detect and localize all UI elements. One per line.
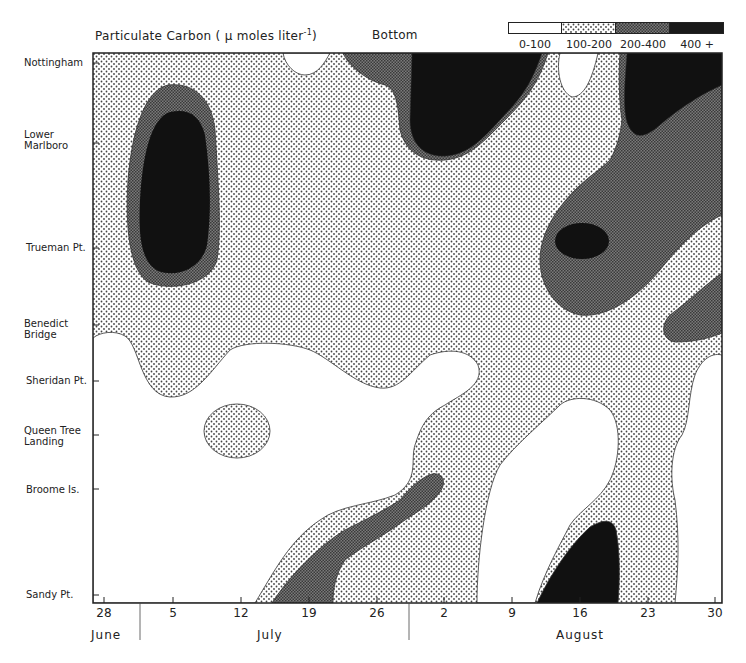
month-june: June bbox=[91, 628, 121, 642]
xlabel-aug-2: 2 bbox=[429, 606, 459, 620]
ylabel-queen-tree-line1: Queen Tree bbox=[24, 425, 81, 436]
contour-plot bbox=[0, 0, 746, 663]
ylabel-queen-tree-landing: Queen Tree Landing bbox=[24, 425, 81, 447]
xlabel-jul-5: 5 bbox=[158, 606, 188, 620]
xlabel-aug-23: 23 bbox=[633, 606, 663, 620]
ylabel-lower-marlboro-line2: Marlboro bbox=[24, 140, 68, 151]
ylabel-queen-tree-line2: Landing bbox=[24, 436, 81, 447]
ylabel-lower-marlboro-line1: Lower bbox=[24, 129, 68, 140]
xlabel-aug-30: 30 bbox=[700, 606, 730, 620]
ylabel-broome-is: Broome Is. bbox=[26, 484, 79, 495]
xlabel-jul-12: 12 bbox=[226, 606, 256, 620]
month-august: August bbox=[556, 628, 604, 642]
ylabel-sheridan-pt: Sheridan Pt. bbox=[26, 375, 87, 386]
region-100-200-island bbox=[204, 404, 270, 458]
ylabel-benedict-bridge: Benedict Bridge bbox=[24, 318, 68, 340]
xlabel-jun-28: 28 bbox=[89, 606, 119, 620]
ylabel-sandy-pt: Sandy Pt. bbox=[26, 589, 73, 600]
region-400-plus-trueman bbox=[555, 223, 609, 259]
month-july: July bbox=[257, 628, 283, 642]
ylabel-benedict-line2: Bridge bbox=[24, 329, 68, 340]
xlabel-aug-16: 16 bbox=[565, 606, 595, 620]
ylabel-nottingham: Nottingham bbox=[24, 57, 83, 68]
ylabel-trueman-pt: Trueman Pt. bbox=[26, 242, 86, 253]
ylabel-lower-marlboro: Lower Marlboro bbox=[24, 129, 68, 151]
xlabel-jul-19: 19 bbox=[294, 606, 324, 620]
ylabel-benedict-line1: Benedict bbox=[24, 318, 68, 329]
xlabel-jul-26: 26 bbox=[362, 606, 392, 620]
xlabel-aug-9: 9 bbox=[497, 606, 527, 620]
